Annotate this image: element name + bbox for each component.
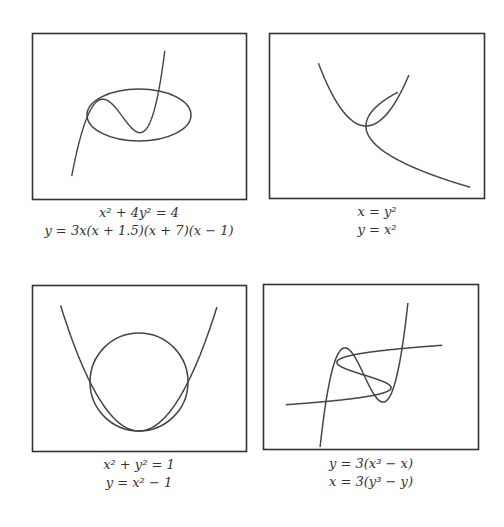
panel-frame-bottom-right: [264, 285, 479, 450]
figure-canvas: [0, 0, 504, 527]
panel-frame-top-right: [270, 34, 485, 199]
cubic-x-curve: [286, 345, 442, 404]
caption-line-2: x = 3(y³ − y): [251, 473, 491, 491]
circle-curve: [90, 333, 188, 431]
panel-frame-top-left: [33, 34, 247, 200]
caption-line-2: y = x² − 1: [19, 474, 259, 492]
parabola-curve: [61, 306, 217, 431]
caption-top-right: x = y² y = x²: [257, 203, 497, 239]
caption-top-left: x² + 4y² = 4 y = 3x(x + 1.5)(x + 7)(x − …: [19, 204, 259, 240]
panel-frame-bottom-left: [33, 286, 247, 452]
caption-line-2: y = x²: [257, 221, 497, 239]
caption-line-1: y = 3(x³ − x): [251, 455, 491, 473]
quartic-curve: [72, 51, 165, 176]
caption-line-2: y = 3x(x + 1.5)(x + 7)(x − 1): [19, 222, 259, 240]
caption-bottom-left: x² + y² = 1 y = x² − 1: [19, 456, 259, 492]
caption-line-1: x = y²: [257, 203, 497, 221]
caption-line-1: x² + 4y² = 4: [19, 204, 259, 222]
parabola-curve: [319, 63, 409, 126]
sideways-parabola-curve: [366, 92, 470, 187]
caption-bottom-right: y = 3(x³ − x) x = 3(y³ − y): [251, 455, 491, 491]
caption-line-1: x² + y² = 1: [19, 456, 259, 474]
